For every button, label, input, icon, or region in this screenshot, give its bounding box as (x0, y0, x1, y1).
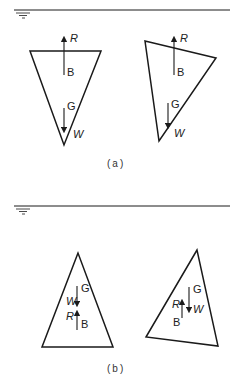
caption-a: (a) (107, 158, 125, 169)
label-g: G (193, 283, 202, 295)
label-w: W (174, 127, 186, 139)
label-w: W (193, 303, 205, 315)
body-tilted-triangle: R B G W (146, 250, 218, 346)
panel-b: G W R B R B G W (b) (14, 206, 230, 374)
label-b: B (81, 318, 88, 330)
label-b: B (67, 66, 74, 78)
label-g: G (81, 282, 90, 294)
water-surface-icon (14, 10, 230, 18)
label-w: W (66, 295, 78, 307)
label-g: G (171, 98, 180, 110)
caption-b: (b) (107, 363, 125, 374)
stability-diagram: R B G W R B G W (a) G (0, 0, 239, 384)
label-r: R (70, 32, 78, 44)
body-upright-inverted-triangle: R B G W (30, 32, 101, 145)
label-r: R (180, 32, 188, 44)
body-tilted-inverted-triangle: R B G W (145, 32, 216, 141)
label-r: R (66, 310, 74, 322)
label-w: W (73, 128, 85, 140)
panel-a: R B G W R B G W (a) (14, 10, 230, 169)
label-b: B (173, 316, 180, 328)
label-b: B (177, 66, 184, 78)
label-r: R (172, 298, 180, 310)
body-upright-triangle: G W R B (42, 253, 113, 347)
water-surface-icon (14, 206, 230, 214)
label-g: G (67, 100, 76, 112)
